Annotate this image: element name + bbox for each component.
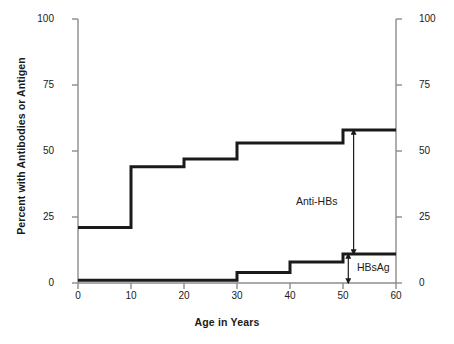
x-tick-label-50: 50 [330,290,356,301]
y-tick-label-75: 75 [28,79,54,90]
x-tick-label-20: 20 [171,290,197,301]
y-tick-label-25: 25 [28,211,54,222]
x-tick-label-30: 30 [224,290,250,301]
x-tick-label-10: 10 [118,290,144,301]
x-tick-label-40: 40 [277,290,303,301]
y2-tick-label-50: 50 [419,145,445,156]
annotation-hbsag: HBsAg [357,261,390,273]
y-tick-label-50: 50 [28,145,54,156]
y-tick-label-0: 0 [28,277,54,288]
x-tick-label-60: 60 [383,290,409,301]
x-axis-label: Age in Years [0,316,454,328]
series-line-anti-hbs [78,130,396,228]
y-tick-label-100: 100 [28,13,54,24]
chart-figure: Percent with Antibodies or Antigen Age i… [0,0,454,344]
y2-tick-label-100: 100 [419,13,445,24]
y2-tick-label-75: 75 [419,79,445,90]
y2-tick-label-0: 0 [419,277,445,288]
x-tick-label-0: 0 [65,290,91,301]
annotation-anti-hbs: Anti-HBs [296,195,337,207]
annotation-arrows [348,130,353,283]
y2-tick-label-25: 25 [419,211,445,222]
